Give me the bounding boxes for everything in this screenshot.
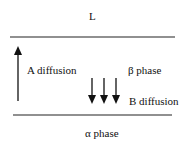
up-arrow-icon <box>14 46 22 101</box>
alpha-phase-label: α phase <box>85 127 119 139</box>
down-arrows-icon <box>88 78 120 104</box>
region-label-L: L <box>89 10 96 22</box>
b-diffusion-label: B diffusion <box>129 95 179 107</box>
a-diffusion-label: A diffusion <box>27 64 77 76</box>
beta-phase-label: β phase <box>128 64 161 76</box>
